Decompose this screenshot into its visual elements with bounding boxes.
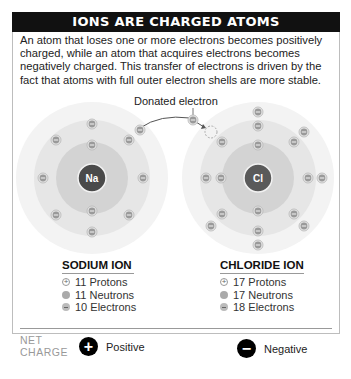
net-charge-label: NET CHARGE	[20, 334, 68, 358]
chloride-ion-legend: CHLORIDE ION 17 Protons 17 Neutrons 18 E…	[220, 259, 304, 314]
chloride-symbol: Cl	[253, 173, 263, 184]
positive-label: Positive	[106, 341, 145, 353]
sodium-ion-title: SODIUM ION	[62, 259, 134, 274]
plus-icon: +	[79, 337, 98, 356]
donated-electron	[188, 115, 198, 125]
chloride-protons: 17 Protons	[220, 276, 304, 289]
chloride-ion-title: CHLORIDE ION	[220, 259, 304, 274]
chloride-neutrons: 17 Neutrons	[220, 289, 304, 302]
neutron-icon	[62, 291, 70, 299]
chloride-electrons-count: 18 Electrons	[220, 301, 304, 314]
neutron-icon	[220, 291, 228, 299]
electron-icon	[62, 303, 70, 311]
proton-icon	[220, 278, 228, 286]
negative-label: Negative	[264, 343, 307, 355]
sodium-symbol: Na	[86, 173, 99, 184]
divider	[20, 328, 332, 329]
sodium-protons: 11 Protons	[62, 276, 136, 289]
sodium-electrons-count: 10 Electrons	[62, 301, 136, 314]
donated-electron-label: Donated electron	[134, 95, 218, 107]
ion-diagram: Na Cl	[0, 0, 351, 379]
sodium-neutrons: 11 Neutrons	[62, 289, 136, 302]
minus-icon: −	[237, 339, 256, 358]
donor-electron-origin	[135, 125, 145, 135]
sodium-ion-legend: SODIUM ION 11 Protons 11 Neutrons 10 Ele…	[62, 259, 136, 314]
sodium-net-charge: + Positive	[79, 337, 145, 356]
chloride-atom: Cl	[182, 102, 334, 254]
proton-icon	[62, 278, 70, 286]
chloride-net-charge: − Negative	[237, 339, 307, 358]
electron-icon	[220, 303, 228, 311]
